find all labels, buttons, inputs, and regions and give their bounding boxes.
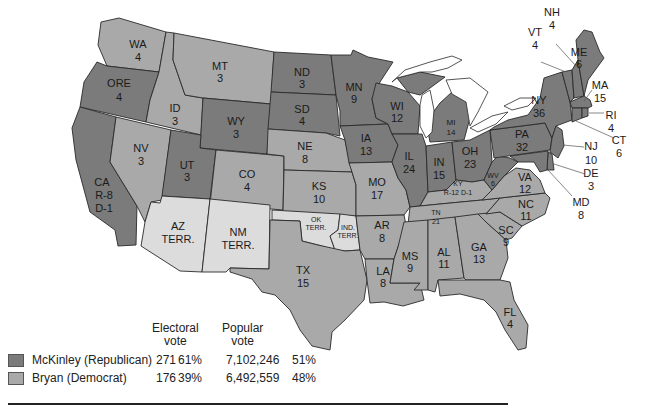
svg-text:MS: MS [402,250,419,262]
popular-pct: 51% [292,353,332,367]
svg-text:9: 9 [407,262,413,274]
candidate-name: McKinley (Republican) [32,353,156,367]
svg-text:8: 8 [379,232,385,244]
svg-text:IA: IA [361,132,372,144]
lake-michigan [420,90,434,138]
svg-text:3: 3 [299,78,305,90]
svg-text:13: 13 [360,145,372,157]
svg-text:KS: KS [312,180,327,192]
svg-text:WY: WY [227,115,245,127]
svg-text:8: 8 [380,277,386,289]
svg-text:VA: VA [518,171,533,183]
svg-text:13: 13 [473,253,485,265]
svg-text:11: 11 [520,210,531,222]
svg-text:WV: WV [487,172,499,179]
svg-text:D-1: D-1 [95,202,113,214]
svg-text:TERR.: TERR. [222,239,255,251]
svg-text:MT: MT [212,60,228,72]
svg-text:NH: NH [544,6,560,18]
svg-text:R-8: R-8 [95,189,113,201]
svg-text:TX: TX [296,264,311,276]
svg-text:6: 6 [491,180,495,187]
svg-text:17: 17 [371,189,383,201]
svg-text:11: 11 [438,258,449,270]
svg-text:3: 3 [172,115,178,127]
legend-header-popular: Popular vote [222,322,263,348]
svg-text:15: 15 [433,169,445,181]
svg-text:3: 3 [184,171,190,183]
svg-text:10: 10 [585,154,597,166]
svg-text:6: 6 [576,58,582,70]
svg-text:MI: MI [447,118,456,127]
legend-row-mckinley: McKinley (Republican) 271 61% 7,102,246 … [8,351,332,369]
svg-text:MN: MN [345,81,362,93]
svg-text:4: 4 [135,51,141,63]
svg-text:SC: SC [498,224,513,236]
svg-text:VT: VT [528,26,542,38]
electoral-votes: 271 [156,353,178,367]
state-ri [582,108,588,118]
svg-text:TN: TN [431,209,440,216]
svg-text:21: 21 [432,218,440,225]
svg-text:4: 4 [608,122,614,134]
svg-text:RI: RI [606,109,617,121]
svg-text:FL: FL [504,306,517,318]
bottom-rule [8,403,508,405]
svg-text:IND.: IND. [341,224,355,231]
svg-text:24: 24 [403,163,415,175]
svg-text:IL: IL [404,150,413,162]
svg-text:CT: CT [612,134,627,146]
svg-text:4: 4 [507,318,513,330]
svg-text:4: 4 [549,19,555,31]
popular-votes: 7,102,246 [226,353,292,367]
svg-text:9: 9 [351,93,357,105]
svg-text:3: 3 [233,128,239,140]
svg-text:36: 36 [533,107,545,119]
svg-text:NC: NC [518,198,534,210]
svg-text:3: 3 [138,155,144,167]
legend-header-electoral-line2: vote [152,335,199,348]
svg-text:UT: UT [180,159,195,171]
svg-text:KY: KY [453,180,463,187]
legend-header-popular-line2: vote [222,335,263,348]
svg-text:ORE: ORE [107,77,131,89]
svg-text:MD: MD [572,196,589,208]
electoral-pct: 61% [178,353,226,367]
republican-swatch [8,354,24,367]
svg-text:NJ: NJ [584,140,597,152]
svg-text:23: 23 [464,158,476,170]
svg-text:OH: OH [462,145,479,157]
svg-text:NE: NE [297,140,312,152]
svg-text:3: 3 [217,72,223,84]
state-ct [572,108,582,122]
svg-text:4: 4 [532,39,538,51]
svg-text:R-12 D-1: R-12 D-1 [444,189,473,196]
candidate-name: Bryan (Democrat) [32,371,156,385]
svg-text:SD: SD [294,103,309,115]
svg-text:ME: ME [571,46,588,58]
svg-text:DE: DE [583,167,598,179]
svg-text:NY: NY [531,94,547,106]
svg-text:6: 6 [616,147,622,159]
popular-pct: 48% [292,371,332,385]
svg-text:3: 3 [588,180,594,192]
svg-text:15: 15 [594,92,606,104]
svg-text:AR: AR [374,219,389,231]
svg-text:4: 4 [116,91,122,103]
svg-text:4: 4 [299,115,305,127]
svg-text:12: 12 [519,183,531,195]
svg-text:10: 10 [313,193,325,205]
svg-text:14: 14 [447,128,456,137]
svg-text:8: 8 [302,153,308,165]
svg-text:NM: NM [229,226,246,238]
svg-text:AL: AL [437,246,450,258]
legend-header-electoral: Electoral vote [152,322,199,348]
svg-text:12: 12 [391,112,403,124]
svg-text:9: 9 [503,236,509,248]
svg-text:AZ: AZ [171,220,185,232]
svg-text:32: 32 [516,141,528,153]
svg-text:WI: WI [390,100,403,112]
svg-text:MA: MA [592,79,609,91]
svg-text:CO: CO [239,168,256,180]
svg-text:8: 8 [578,209,584,221]
